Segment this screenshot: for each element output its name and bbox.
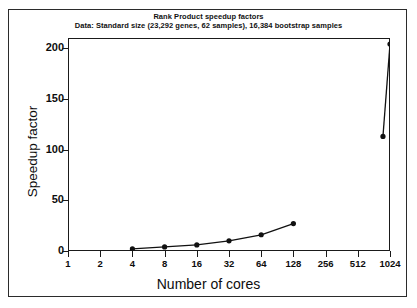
x-axis-tick-mark <box>68 251 69 257</box>
plot-area-frame <box>68 38 390 251</box>
x-axis-tick-mark <box>100 251 101 257</box>
x-axis-tick-mark <box>197 251 198 257</box>
y-axis-tick-label: 200 <box>24 42 64 53</box>
y-axis-tick-mark <box>62 200 68 201</box>
y-axis-title: Speedup factor <box>25 72 40 232</box>
x-axis-tick-mark <box>390 251 391 257</box>
y-axis-tick-label: 0 <box>24 245 64 256</box>
x-axis-tick-mark <box>165 251 166 257</box>
x-axis-tick-mark <box>326 251 327 257</box>
y-axis-tick-mark <box>62 99 68 100</box>
y-axis-tick-mark <box>62 48 68 49</box>
x-axis-tick-mark <box>132 251 133 257</box>
x-axis-tick-mark <box>229 251 230 257</box>
x-axis-tick-label: 1024 <box>370 259 410 269</box>
x-axis-tick-mark <box>358 251 359 257</box>
y-axis-tick-mark <box>62 150 68 151</box>
x-axis-title: Number of cores <box>0 276 417 292</box>
x-axis-tick-mark <box>261 251 262 257</box>
x-axis-tick-mark <box>293 251 294 257</box>
chart-figure: Rank Product speedup factors Data: Stand… <box>0 0 417 308</box>
